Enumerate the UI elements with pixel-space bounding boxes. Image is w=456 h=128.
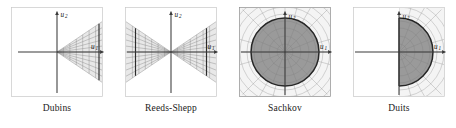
panel-caption-dubins: Dubins [43,102,71,114]
panel-dubins: u 2 u 1 Dubins [0,0,114,128]
axis-label-u2: u [61,11,65,19]
axis-label-u1-subscript: 1 [439,45,442,51]
panel-caption-duits: Duits [388,102,409,114]
control-set-figure-row: u 2 u 1 Dubins [0,0,456,128]
axis-label-u1-subscript: 1 [212,45,215,51]
axis-label-u1: u [208,43,212,51]
axis-label-u1: u [91,43,95,51]
panel-caption-sachkov: Sachkov [268,102,302,114]
axis-label-u1: u [320,43,324,51]
axis-label-u1-subscript: 1 [325,45,328,51]
panel-duits: u 2 u 1 Duits [342,0,456,128]
panel-sachkov: u 2 u 1 Sachkov [228,0,342,128]
axis-label-u2-subscript: 2 [65,13,68,19]
panel-reeds-shepp: u 2 u 1 Reeds-Shepp [114,0,228,128]
axis-label-u2: u [289,13,293,21]
panel-dubins-plot: u 2 u 1 [7,4,107,100]
panel-sachkov-plot: u 2 u 1 [235,4,335,100]
axis-label-u1-subscript: 1 [96,45,99,51]
axis-label-u2-subscript: 2 [179,13,182,19]
axis-label-u2: u [403,13,407,21]
axis-label-u1: u [434,43,438,51]
panel-reeds-shepp-plot: u 2 u 1 [121,4,221,100]
axis-label-u2-subscript: 2 [407,15,410,21]
axis-label-u2-subscript: 2 [293,15,296,21]
panel-caption-reeds-shepp: Reeds-Shepp [145,102,197,114]
axis-label-u2: u [175,11,179,19]
panel-duits-plot: u 2 u 1 [349,4,449,100]
